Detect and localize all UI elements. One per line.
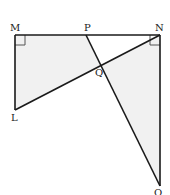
label-q: Q: [95, 67, 103, 78]
geometry-diagram: M P N Q L O: [0, 0, 170, 195]
label-p: P: [84, 22, 91, 33]
shaded-region-nqo: [101, 35, 160, 186]
label-l: L: [11, 112, 18, 123]
label-m: M: [10, 22, 20, 33]
label-n: N: [155, 22, 164, 33]
label-o: O: [154, 187, 162, 195]
